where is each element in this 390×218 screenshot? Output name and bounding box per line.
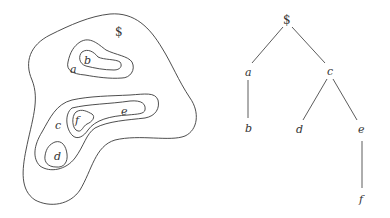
tree-node-e: e xyxy=(358,123,365,136)
tree-node-b: b xyxy=(245,122,252,135)
tree-node-a: a xyxy=(245,66,252,79)
region-label-root: $ xyxy=(115,25,123,39)
region-root xyxy=(23,14,196,204)
region-view: $ a b c d e f xyxy=(23,14,196,204)
region-a xyxy=(68,40,134,78)
region-label-c: c xyxy=(55,119,61,132)
tree-node-root: $ xyxy=(283,13,291,27)
nesting-diagram: $ a b c d e f $ a b c d e f xyxy=(0,0,390,218)
edge-root-c xyxy=(292,27,325,63)
tree-view: $ a b c d e f xyxy=(245,13,365,206)
edge-root-a xyxy=(252,27,283,63)
edge-c-d xyxy=(303,79,327,120)
tree-node-d: d xyxy=(296,123,303,136)
region-label-d: d xyxy=(54,150,61,163)
tree-node-c: c xyxy=(327,65,333,78)
edge-c-e xyxy=(333,79,357,120)
region-label-b: b xyxy=(84,54,91,67)
tree-node-f: f xyxy=(358,193,365,206)
region-label-a: a xyxy=(70,63,77,76)
region-label-f: f xyxy=(74,114,81,127)
region-label-e: e xyxy=(121,105,128,118)
